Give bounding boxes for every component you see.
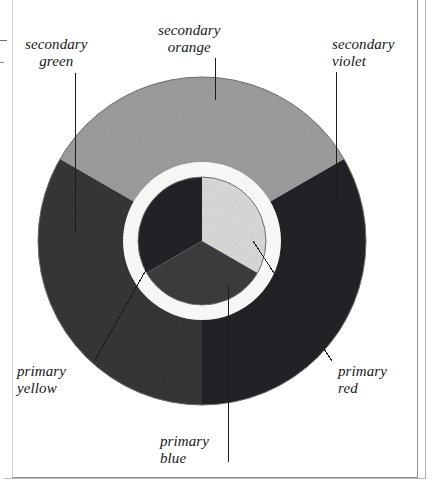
label-primary-blue-line2: blue: [160, 450, 209, 467]
color-wheel-graphic: [0, 0, 436, 493]
label-primary-yellow-line2: yellow: [17, 380, 66, 397]
label-secondary-orange: secondary orange: [158, 22, 221, 56]
label-secondary-green: secondary green: [25, 36, 88, 70]
label-primary-red-line2: red: [338, 380, 387, 397]
label-primary-red: primary red: [338, 363, 387, 397]
label-secondary-orange-line1: secondary: [158, 22, 221, 38]
figure-page: secondary green secondary orange seconda…: [0, 0, 436, 493]
label-secondary-violet-line2: violet: [332, 53, 395, 70]
label-secondary-orange-line2: orange: [158, 39, 221, 56]
primary-disc: [138, 177, 266, 305]
label-primary-blue: primary blue: [160, 433, 209, 467]
label-primary-yellow-line1: primary: [17, 363, 66, 379]
label-primary-yellow: primary yellow: [17, 363, 66, 397]
label-secondary-violet: secondary violet: [332, 36, 395, 70]
label-secondary-green-line1: secondary: [25, 36, 88, 52]
label-secondary-green-line2: green: [25, 53, 88, 70]
label-secondary-violet-line1: secondary: [332, 36, 395, 52]
label-primary-blue-line1: primary: [160, 433, 209, 449]
label-primary-red-line1: primary: [338, 363, 387, 379]
